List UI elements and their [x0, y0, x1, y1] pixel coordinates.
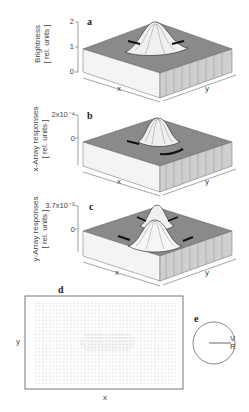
panel-a-tick-0: 0 — [62, 67, 74, 76]
panel-b-xlabel: x — [117, 177, 121, 186]
panel-e-letter: e — [194, 313, 198, 324]
surface-plot-c — [75, 205, 236, 286]
panel-b-tick-0: 0 — [40, 134, 75, 143]
surface-plot-a — [75, 22, 236, 102]
panel-a-ylabel-line1: Brightness — [33, 4, 42, 84]
panel-c-letter: c — [89, 201, 93, 212]
panel-a-tick-1: 1 — [62, 42, 74, 51]
panel-d-letter: d — [58, 284, 64, 295]
panel-a-yaxis-label: y — [205, 84, 209, 93]
panel-d-xlabel: x — [103, 393, 107, 402]
panel-a-ylabel: Brightness [ rel. units ] — [33, 4, 51, 84]
panel-a-xlabel: x — [117, 84, 121, 93]
panel-b-letter: b — [87, 110, 93, 121]
panel-c-tick-top: 3.7x10⁻⁵ — [30, 201, 75, 210]
vector-field-plot-d — [25, 296, 183, 389]
panel-c-tick-0: 0 — [30, 225, 75, 234]
panel-b-yaxis-label: y — [205, 177, 209, 186]
panel-a-tick-2: 2 — [62, 17, 74, 26]
panel-b-tick-top: 2x10⁻⁴ — [40, 110, 75, 119]
panel-a-letter: a — [87, 16, 92, 27]
panel-e-label-r: R — [230, 342, 236, 351]
panel-c-xlabel: x — [115, 268, 119, 277]
circle-diagram-e — [193, 322, 235, 364]
panel-a-ylabel-line2: [ rel. units ] — [42, 4, 51, 84]
panel-d-ylabel: y — [16, 337, 20, 346]
panel-c-yaxis-label: y — [205, 268, 209, 277]
surface-plot-b — [75, 115, 236, 196]
